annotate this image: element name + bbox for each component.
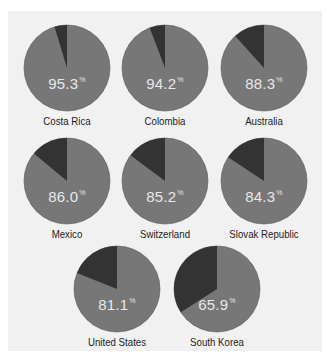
pie-percent-label: 81.1% bbox=[62, 296, 172, 313]
pie-chart-south-korea: 65.9% bbox=[162, 234, 272, 344]
percent-value: 65.9 bbox=[198, 296, 228, 313]
percent-sign: % bbox=[177, 189, 183, 196]
pie-chart-costa-rica: 95.3% bbox=[12, 13, 122, 123]
pie-chart-mexico: 86.0% bbox=[12, 126, 122, 236]
percent-sign: % bbox=[79, 189, 85, 196]
pie-chart-slovak-republic: 84.3% bbox=[209, 126, 319, 236]
pie-percent-label: 84.3% bbox=[209, 188, 319, 205]
percent-value: 81.1 bbox=[98, 296, 128, 313]
pie-chart-colombia: 94.2% bbox=[110, 13, 220, 123]
pie-chart-united-states: 81.1% bbox=[62, 234, 172, 344]
pie-percent-label: 86.0% bbox=[12, 188, 122, 205]
percent-sign: % bbox=[177, 76, 183, 83]
pie-percent-label: 88.3% bbox=[209, 75, 319, 92]
country-label: United States bbox=[64, 336, 170, 348]
percent-value: 94.2 bbox=[146, 75, 176, 92]
pie-percent-label: 95.3% bbox=[12, 75, 122, 92]
percent-sign: % bbox=[229, 297, 235, 304]
percent-value: 86.0 bbox=[48, 188, 78, 205]
percent-sign: % bbox=[79, 76, 85, 83]
percent-value: 85.2 bbox=[146, 188, 176, 205]
percent-value: 95.3 bbox=[48, 75, 78, 92]
percent-sign: % bbox=[129, 297, 135, 304]
pie-percent-label: 65.9% bbox=[162, 296, 272, 313]
pie-chart-switzerland: 85.2% bbox=[110, 126, 220, 236]
pie-chart-australia: 88.3% bbox=[209, 13, 319, 123]
percent-sign: % bbox=[276, 189, 282, 196]
country-label: South Korea bbox=[164, 336, 270, 348]
percent-sign: % bbox=[276, 76, 282, 83]
percent-value: 84.3 bbox=[245, 188, 275, 205]
pie-percent-label: 94.2% bbox=[110, 75, 220, 92]
percent-value: 88.3 bbox=[245, 75, 275, 92]
pie-percent-label: 85.2% bbox=[110, 188, 220, 205]
